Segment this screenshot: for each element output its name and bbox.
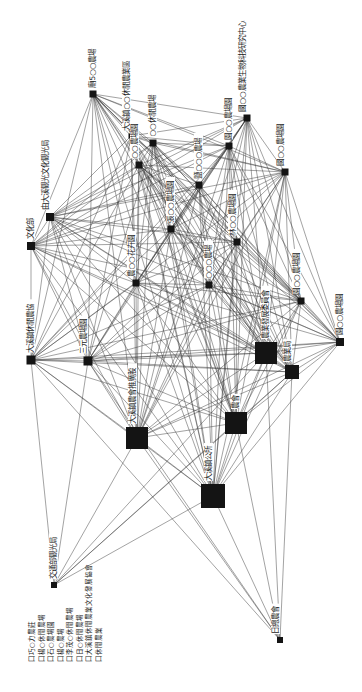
legend-item: 口李茂○休閒農場 [65, 607, 74, 662]
edge [292, 342, 340, 372]
node-square [285, 365, 299, 379]
node-label: 張○○農場園 [165, 181, 175, 222]
node-label: 農業發展委員會 [260, 289, 270, 339]
edge [137, 285, 209, 438]
node-label: 農業局 [282, 341, 292, 362]
node-label: 大溪鎮公所 [203, 445, 213, 481]
node-n9: 由大溪觀光文化觀光局 [40, 134, 54, 221]
edge [213, 372, 292, 496]
edge [54, 361, 88, 585]
node-label: 園○○農場園 [223, 98, 233, 139]
edge [153, 143, 285, 172]
node-n13: 農○○花卉園 [126, 231, 140, 287]
node-square [27, 356, 36, 365]
legend-item: 口大溪鎮休閒農業文化發展協會 [84, 564, 93, 662]
node-label: ○○農場園 [129, 124, 139, 158]
edge [88, 361, 213, 496]
node-label: 林○○農場園 [227, 194, 237, 235]
node-square [234, 239, 241, 246]
node-n25: 日總農會 [270, 604, 283, 643]
node-square [277, 637, 283, 643]
edge [88, 94, 93, 361]
node-label: 文化部 [25, 217, 35, 239]
node-n8: 鹽○○○農場 [193, 133, 203, 189]
node-label: 廟5○○農場 [87, 48, 97, 88]
legend-item: 口楊○農場 [56, 628, 65, 662]
edge [54, 496, 213, 585]
legend-item: 口休閒農業 [94, 627, 103, 662]
node-label: 國○○農業生物科技研究中心 [237, 20, 247, 111]
edge [266, 353, 280, 640]
node-square [84, 357, 93, 366]
node-n17: 三元農場園 [78, 316, 93, 366]
node-square [90, 91, 97, 98]
node-label: 園○○農場園 [334, 294, 344, 335]
node-square [244, 115, 251, 122]
node-square [201, 484, 225, 508]
node-square [206, 282, 213, 289]
node-n10: 文化部 [25, 216, 35, 250]
edge [213, 496, 280, 640]
node-label: ○○○農場 [203, 244, 213, 279]
edge [88, 361, 280, 640]
node-label: 國○○農場園 [275, 124, 285, 165]
legend-item: 口楊○休閒農場 [37, 614, 46, 662]
edge [137, 143, 153, 438]
node-label: 園○○農場園 [291, 253, 301, 294]
node-label: 日總農會 [270, 605, 280, 634]
node-square [27, 242, 35, 250]
node-square [150, 140, 157, 147]
node-label: 大溪鎮農會推廣股 [127, 367, 137, 424]
edge [54, 353, 266, 585]
node-square [126, 427, 148, 449]
node-square [196, 182, 203, 189]
node-n24: 交通部觀光局 [48, 533, 58, 588]
edge [137, 301, 301, 438]
edge [31, 246, 209, 285]
edge [93, 94, 237, 242]
node-label: 交通部觀光局 [48, 537, 58, 579]
edge [31, 360, 213, 496]
node-square [336, 338, 344, 346]
node-square [136, 162, 143, 169]
legend-item: 口石○農場園 [46, 621, 55, 662]
node-label: 大溪鎮休閒農協 [25, 303, 35, 353]
node-label: 農○○花卉園 [126, 235, 136, 276]
edge [93, 94, 229, 146]
network-diagram: 國○○農業生物科技研究中心園○○農場園國○○農場園廟5○○農場大溪鎮○○休閒農業… [0, 0, 362, 692]
edge [54, 438, 137, 585]
node-label: 大溪鎮○○休閒農業區 [121, 60, 131, 130]
node-square [51, 582, 57, 588]
node-square [133, 280, 140, 287]
node-label: 農會 [230, 394, 240, 409]
node-square [168, 226, 175, 233]
legend-item: 口巧○力農莊 [27, 621, 36, 662]
edge [209, 285, 340, 342]
node-square [226, 143, 233, 150]
node-n1: 國○○農業生物科技研究中心 [237, 13, 251, 122]
edge [171, 229, 340, 342]
edge [136, 283, 213, 496]
edge [229, 146, 301, 301]
node-square [298, 298, 305, 305]
node-n23: 大溪鎮公所 [201, 443, 225, 508]
node-label: 三元農場園 [78, 319, 88, 354]
node-label: 鹽○○○農場 [193, 137, 203, 179]
legend-item: 口日○休閒農場 [75, 614, 84, 662]
node-square [255, 342, 277, 364]
node-n4: 廟5○○農場 [87, 42, 97, 98]
node-label: 由大溪觀光文化觀光局 [40, 140, 50, 210]
node-square [46, 213, 54, 221]
node-square [225, 412, 247, 434]
node-label: ○○休閒農場 [147, 94, 157, 136]
node-square [282, 169, 289, 176]
